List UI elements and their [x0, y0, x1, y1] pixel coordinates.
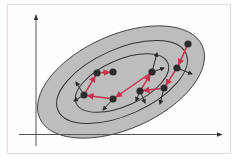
iterate-point [109, 95, 116, 102]
iterate-point [173, 64, 180, 71]
path-step-arrow [100, 72, 109, 73]
iterate-point [109, 68, 116, 75]
iterate-point [184, 40, 191, 47]
iterate-point [148, 68, 155, 75]
optimization-diagram [0, 0, 242, 162]
iterate-point [93, 69, 100, 76]
iterate-point [136, 87, 143, 94]
contour-ellipse-0 [21, 3, 222, 161]
iterate-point [80, 91, 87, 98]
contour-lines [21, 3, 222, 161]
iterate-point [160, 84, 167, 91]
